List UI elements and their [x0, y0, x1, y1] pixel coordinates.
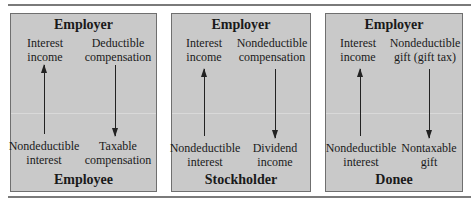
label-line: income — [174, 50, 234, 64]
bottom-rule — [8, 196, 471, 198]
divider — [11, 113, 156, 114]
divider — [326, 113, 462, 114]
arrow-up-icon — [44, 65, 45, 134]
label-line: Interest — [174, 36, 234, 50]
label-line: Nondeductible — [322, 141, 400, 155]
label-line: compensation — [81, 153, 155, 167]
label-line: interest — [322, 155, 400, 169]
top-right-label: Nondeductible gift (gift tax) — [386, 36, 464, 64]
label-line: Taxable — [81, 139, 155, 153]
bottom-left-label: Nondeductible interest — [1, 139, 87, 167]
panel-stockholder: Employer Interest income Nondeductible c… — [171, 13, 311, 192]
bottom-party-label: Employee — [11, 172, 156, 188]
arrow-down-icon — [115, 65, 116, 136]
top-party-label: Employer — [172, 17, 310, 33]
arrow-up-icon — [360, 69, 361, 136]
label-line: Nondeductible — [1, 139, 87, 153]
label-line: Interest — [328, 36, 388, 50]
label-line: Nondeductible — [386, 36, 464, 50]
top-left-label: Interest income — [15, 36, 75, 64]
label-line: Dividend — [240, 141, 310, 155]
label-line: Deductible — [81, 36, 155, 50]
label-line: Interest — [15, 36, 75, 50]
label-line: income — [240, 155, 310, 169]
bottom-left-label: Nondeductible interest — [166, 141, 244, 169]
bottom-left-label: Nondeductible interest — [322, 141, 400, 169]
top-party-label: Employer — [11, 17, 156, 33]
arrow-down-icon — [275, 69, 276, 138]
arrow-down-icon — [429, 69, 430, 138]
panel-donee: Employer Interest income Nondeductible g… — [325, 13, 463, 192]
label-line: gift (gift tax) — [386, 50, 464, 64]
label-line: compensation — [232, 50, 312, 64]
bottom-party-label: Stockholder — [172, 172, 310, 188]
arrow-up-icon — [204, 69, 205, 136]
top-right-label: Deductible compensation — [81, 36, 155, 64]
label-line: Nondeductible — [232, 36, 312, 50]
top-party-label: Employer — [326, 17, 462, 33]
bottom-right-label: Taxable compensation — [81, 139, 155, 167]
label-line: interest — [1, 153, 87, 167]
bottom-party-label: Donee — [326, 172, 462, 188]
label-line: gift — [396, 155, 462, 169]
top-left-label: Interest income — [174, 36, 234, 64]
label-line: income — [15, 50, 75, 64]
panel-employee: Employer Interest income Deductible comp… — [10, 13, 157, 192]
top-right-label: Nondeductible compensation — [232, 36, 312, 64]
bottom-right-label: Dividend income — [240, 141, 310, 169]
bottom-right-label: Nontaxable gift — [396, 141, 462, 169]
label-line: income — [328, 50, 388, 64]
top-rule — [8, 4, 471, 6]
label-line: interest — [166, 155, 244, 169]
label-line: compensation — [81, 50, 155, 64]
label-line: Nondeductible — [166, 141, 244, 155]
top-left-label: Interest income — [328, 36, 388, 64]
label-line: Nontaxable — [396, 141, 462, 155]
divider — [172, 113, 310, 114]
